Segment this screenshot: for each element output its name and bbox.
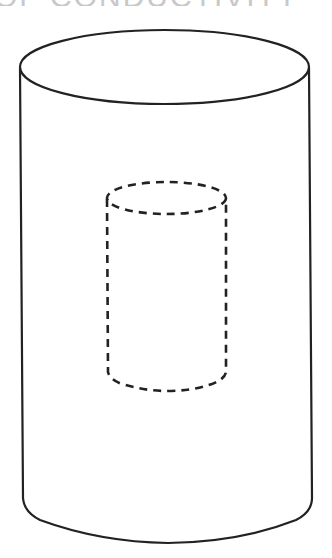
inner-cylinder-hidden <box>107 182 226 391</box>
inner-top-ellipse <box>107 182 226 214</box>
cylinder-diagram <box>0 0 332 558</box>
outer-top-ellipse <box>20 30 309 104</box>
outer-body-outline <box>20 68 312 543</box>
outer-cylinder <box>20 30 312 543</box>
inner-body-outline <box>107 199 226 391</box>
